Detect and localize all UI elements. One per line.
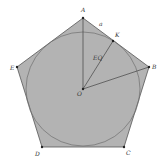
label-O: O — [77, 90, 82, 97]
label-radius: EQ — [92, 54, 102, 61]
label-E: E — [9, 64, 15, 71]
point-B — [148, 66, 150, 68]
pentagon-diagram: A B C D E O K a EQ — [0, 0, 167, 164]
label-side-a: a — [99, 20, 103, 27]
point-K — [112, 40, 114, 42]
label-C: C — [126, 149, 131, 156]
label-A: A — [80, 6, 86, 13]
point-D — [41, 146, 43, 148]
label-K: K — [114, 31, 120, 38]
point-A — [82, 17, 84, 19]
label-D: D — [34, 150, 40, 157]
label-B: B — [151, 63, 157, 70]
point-O — [82, 88, 84, 90]
point-E — [16, 66, 18, 68]
point-C — [123, 146, 125, 148]
